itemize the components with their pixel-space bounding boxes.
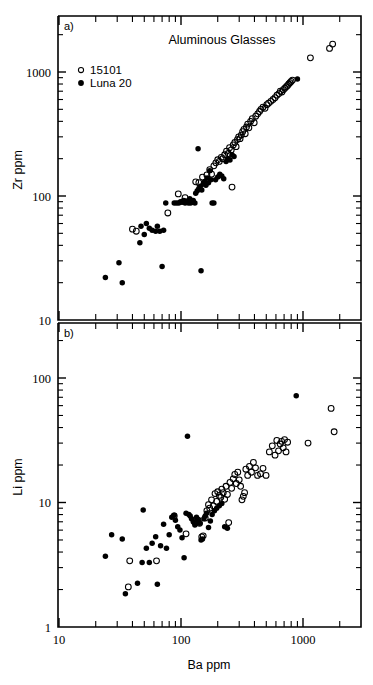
datapoint-filled-circle bbox=[211, 200, 217, 206]
datapoint-filled-circle bbox=[138, 224, 144, 230]
datapoint-filled-circle bbox=[293, 393, 299, 399]
datapoint-filled-circle bbox=[198, 268, 204, 274]
datapoint-filled-circle bbox=[161, 227, 167, 233]
x-ticklabel: 100 bbox=[172, 633, 191, 647]
datapoint-filled-circle bbox=[144, 221, 150, 227]
panel-a-y-ticklabel: 10 bbox=[39, 314, 52, 328]
datapoint-filled-circle bbox=[144, 545, 150, 551]
datapoint-filled-circle bbox=[163, 200, 169, 206]
panel-a: 101001000 a) Aluminous Glasses Zr ppm 15… bbox=[11, 16, 361, 328]
x-ticklabel: 1000 bbox=[291, 633, 316, 647]
figure-root: 101001000 a) Aluminous Glasses Zr ppm 15… bbox=[0, 0, 373, 685]
panel-b-y-ticklabel: 10 bbox=[39, 496, 52, 510]
x-axis-title: Ba ppm bbox=[187, 658, 230, 672]
datapoint-filled-circle bbox=[120, 280, 126, 286]
datapoint-filled-circle bbox=[139, 560, 145, 566]
datapoint-filled-circle bbox=[109, 532, 115, 538]
datapoint-filled-circle bbox=[231, 154, 237, 160]
panel-a-title: Aluminous Glasses bbox=[169, 33, 276, 47]
datapoint-filled-circle bbox=[221, 176, 227, 182]
datapoint-filled-circle bbox=[177, 527, 183, 533]
scatter-figure: 101001000 a) Aluminous Glasses Zr ppm 15… bbox=[0, 0, 373, 685]
panel-b-y-ticklabel: 1 bbox=[45, 621, 51, 635]
datapoint-filled-circle bbox=[192, 200, 198, 206]
panel-b-label: b) bbox=[64, 327, 74, 339]
datapoint-filled-circle bbox=[103, 554, 109, 560]
datapoint-filled-circle bbox=[171, 513, 177, 519]
datapoint-filled-circle bbox=[161, 521, 167, 527]
panel-a-y-ticklabel: 1000 bbox=[26, 66, 51, 80]
datapoint-filled-circle bbox=[179, 535, 185, 541]
datapoint-filled-circle bbox=[225, 526, 231, 532]
datapoint-filled-circle bbox=[181, 555, 187, 561]
datapoint-filled-circle bbox=[295, 76, 301, 82]
datapoint-filled-circle bbox=[200, 536, 206, 542]
panel-b-y-ticklabel: 100 bbox=[32, 372, 51, 386]
panel-a-y-ticklabels: 101001000 bbox=[26, 66, 51, 328]
datapoint-filled-circle bbox=[164, 545, 170, 551]
datapoint-filled-circle bbox=[123, 591, 129, 597]
datapoint-filled-circle bbox=[153, 534, 159, 540]
datapoint-filled-circle bbox=[158, 543, 164, 549]
datapoint-filled-circle bbox=[155, 582, 161, 588]
datapoint-filled-circle bbox=[137, 240, 143, 246]
datapoint-filled-circle bbox=[166, 532, 172, 538]
panel-b-background bbox=[58, 323, 361, 627]
datapoint-filled-circle bbox=[219, 501, 225, 507]
datapoint-filled-circle bbox=[159, 264, 165, 270]
datapoint-filled-circle bbox=[140, 507, 146, 513]
datapoint-filled-circle bbox=[206, 525, 212, 531]
datapoint-filled-circle bbox=[120, 536, 126, 542]
datapoint-filled-circle bbox=[149, 541, 155, 547]
datapoint-filled-circle bbox=[173, 518, 179, 524]
panel-b-y-axis-title: Li ppm bbox=[11, 458, 25, 496]
datapoint-filled-circle bbox=[204, 510, 210, 516]
datapoint-filled-circle bbox=[208, 518, 214, 524]
datapoint-filled-circle bbox=[116, 260, 122, 266]
panel-b: 110100 101001000 b) Li ppm Ba ppm bbox=[11, 323, 361, 672]
datapoint-filled-circle bbox=[147, 560, 153, 566]
legend-label-15101: 15101 bbox=[90, 64, 122, 76]
datapoint-filled-circle bbox=[197, 521, 203, 527]
panel-b-y-ticklabels: 110100 bbox=[32, 372, 51, 635]
x-ticklabel: 10 bbox=[53, 633, 66, 647]
panel-a-y-axis-title: Zr ppm bbox=[11, 150, 25, 190]
datapoint-filled-circle bbox=[155, 224, 161, 230]
legend-marker-filled-circle bbox=[78, 80, 84, 86]
datapoint-filled-circle bbox=[185, 434, 191, 440]
datapoint-filled-circle bbox=[192, 522, 198, 528]
datapoint-filled-circle bbox=[195, 146, 201, 152]
legend-label-luna-20: Luna 20 bbox=[90, 77, 132, 89]
datapoint-filled-circle bbox=[142, 232, 148, 238]
datapoint-filled-circle bbox=[199, 187, 205, 193]
datapoint-filled-circle bbox=[103, 275, 109, 281]
panel-b-x-ticklabels: 101001000 bbox=[53, 633, 316, 647]
panel-a-y-ticklabel: 100 bbox=[32, 190, 51, 204]
datapoint-filled-circle bbox=[135, 580, 141, 586]
panel-a-label: a) bbox=[64, 20, 74, 32]
datapoint-filled-circle bbox=[207, 168, 213, 174]
